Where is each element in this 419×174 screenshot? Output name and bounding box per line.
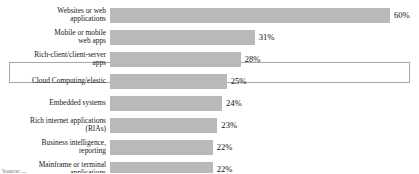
bar-fill bbox=[110, 8, 390, 23]
bar-row: Rich internet applications (RIAs) 23% bbox=[0, 114, 419, 136]
bar-row: Mainframe or terminal applications 22% bbox=[0, 158, 419, 173]
bar-area: 23% bbox=[110, 114, 419, 136]
bar-value-label: 22% bbox=[217, 143, 233, 152]
bar-area: 25% bbox=[110, 70, 419, 92]
bar-label: Rich internet applications (RIAs) bbox=[0, 117, 110, 134]
bar-row-highlighted: Cloud Computing/elastic 25% bbox=[0, 70, 419, 92]
bar-value-label: 60% bbox=[394, 11, 410, 20]
bar-fill bbox=[110, 96, 222, 111]
bar-area: 31% bbox=[110, 26, 419, 48]
bar-label: Business intelligence, reporting bbox=[0, 139, 110, 156]
bar-row: Embedded systems 24% bbox=[0, 92, 419, 114]
bar-rows: Websites or web applications 60% Mobile … bbox=[0, 0, 419, 173]
bar-value-label: 24% bbox=[226, 99, 242, 108]
bar-area: 60% bbox=[110, 4, 419, 26]
bar-area: 28% bbox=[110, 48, 419, 70]
bar-value-label: 23% bbox=[221, 121, 237, 130]
bar-row: Rich-client/client-server apps 28% bbox=[0, 48, 419, 70]
bar-fill bbox=[110, 52, 241, 67]
bar-value-label: 25% bbox=[231, 77, 247, 86]
bar-label: Websites or web applications bbox=[0, 7, 110, 24]
bar-area: 22% bbox=[110, 136, 419, 158]
bar-label: Rich-client/client-server apps bbox=[0, 51, 110, 68]
bar-row: Business intelligence, reporting 22% bbox=[0, 136, 419, 158]
bar-fill bbox=[110, 140, 213, 155]
bar-row: Websites or web applications 60% bbox=[0, 4, 419, 26]
bar-label: Mainframe or terminal applications bbox=[0, 161, 110, 173]
bar-area: 24% bbox=[110, 92, 419, 114]
bar-fill bbox=[110, 162, 213, 174]
bar-chart: Websites or web applications 60% Mobile … bbox=[0, 0, 419, 173]
bar-fill bbox=[110, 30, 255, 45]
bar-fill bbox=[110, 118, 217, 133]
bar-label: Embedded systems bbox=[0, 99, 110, 107]
bar-value-label: 28% bbox=[245, 55, 261, 64]
bar-fill bbox=[110, 74, 227, 89]
bar-label: Cloud Computing/elastic bbox=[0, 77, 110, 85]
bar-area: 22% bbox=[110, 158, 419, 173]
bar-label: Mobile or mobile web apps bbox=[0, 29, 110, 46]
bar-row: Mobile or mobile web apps 31% bbox=[0, 26, 419, 48]
bar-value-label: 31% bbox=[259, 33, 275, 42]
bar-value-label: 22% bbox=[217, 165, 233, 174]
